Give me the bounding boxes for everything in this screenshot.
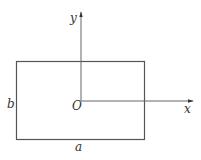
diagram-canvas: y x O b a xyxy=(0,0,201,160)
y-axis-label: y xyxy=(69,11,77,25)
origin-label: O xyxy=(72,99,82,113)
x-axis-label: x xyxy=(184,102,191,116)
height-label: b xyxy=(7,97,15,111)
width-label: a xyxy=(75,140,82,154)
